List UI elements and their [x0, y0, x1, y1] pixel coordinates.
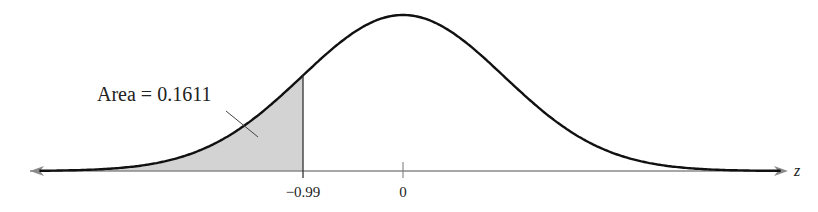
normal-curve-chart: Area = 0.1611 −0.99 0 z: [0, 0, 818, 212]
axis-label-z: z: [793, 162, 801, 179]
area-annotation: Area = 0.1611: [97, 83, 211, 105]
tick-label-neg: −0.99: [286, 184, 321, 200]
tick-label-zero: 0: [399, 184, 407, 200]
